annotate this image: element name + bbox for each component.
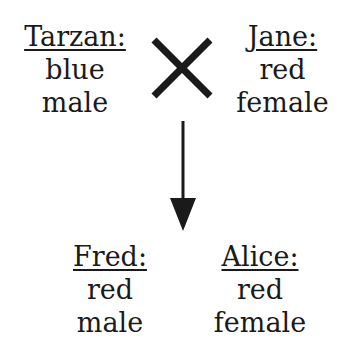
person-color: red [200,273,320,306]
person-name: Fred: [50,240,170,273]
person-sex: male [50,306,170,339]
person-sex: female [200,306,320,339]
person-name: Alice: [200,240,320,273]
cross-icon [154,40,210,96]
down-arrow-icon [170,121,196,231]
offspring-fred: Fred: red male [50,240,170,339]
person-color: red [50,273,170,306]
offspring-alice: Alice: red female [200,240,320,339]
